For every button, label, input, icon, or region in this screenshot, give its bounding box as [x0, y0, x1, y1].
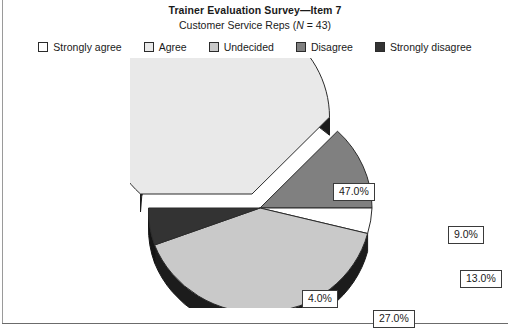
data-label-agree: 47.0%	[333, 183, 375, 201]
legend-label-disagree: Disagree	[311, 41, 353, 53]
subtitle-sample-size-symbol: N	[296, 19, 304, 31]
chart-subtitle: Customer Service Reps (N = 43)	[0, 18, 510, 32]
legend-label-agree: Agree	[159, 41, 187, 53]
legend-item-agree[interactable]: Agree	[144, 41, 187, 53]
plot-frame-left-rule	[2, 0, 3, 324]
legend-swatch-undecided	[209, 42, 219, 52]
legend-swatch-strongly-agree	[38, 42, 48, 52]
plot-frame-bottom-rule	[2, 323, 508, 324]
data-label-strongly-agree: 13.0%	[460, 270, 502, 288]
subtitle-suffix: = 43)	[304, 19, 331, 31]
chart-legend: Strongly agree Agree Undecided Disagree …	[0, 41, 510, 53]
title-block: Trainer Evaluation Survey—Item 7 Custome…	[0, 4, 510, 32]
legend-item-disagree[interactable]: Disagree	[296, 41, 353, 53]
legend-label-strongly-disagree: Strongly disagree	[390, 41, 472, 53]
legend-swatch-disagree	[296, 42, 306, 52]
legend-label-undecided: Undecided	[224, 41, 274, 53]
data-label-strongly-disagree: 4.0%	[302, 290, 338, 308]
legend-item-strongly-disagree[interactable]: Strongly disagree	[375, 41, 472, 53]
data-label-disagree: 9.0%	[448, 226, 484, 244]
legend-swatch-agree	[144, 42, 154, 52]
legend-label-strongly-agree: Strongly agree	[53, 41, 121, 53]
page-title: Trainer Evaluation Survey—Item 7	[0, 4, 510, 17]
legend-item-strongly-agree[interactable]: Strongly agree	[38, 41, 121, 53]
subtitle-prefix: Customer Service Reps (	[179, 19, 296, 31]
pie-chart: 47.0% 9.0% 13.0% 27.0% 4.0%	[130, 58, 380, 308]
legend-swatch-strongly-disagree	[375, 42, 385, 52]
legend-item-undecided[interactable]: Undecided	[209, 41, 274, 53]
data-label-undecided: 27.0%	[373, 310, 415, 328]
